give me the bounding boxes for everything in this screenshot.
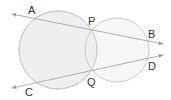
label-P: P bbox=[88, 15, 95, 27]
label-A: A bbox=[28, 4, 36, 16]
label-Q: Q bbox=[87, 76, 96, 88]
right-circle bbox=[85, 18, 149, 82]
geometry-diagram: A P B D Q C bbox=[0, 0, 171, 100]
label-D: D bbox=[148, 60, 156, 72]
label-B: B bbox=[148, 28, 155, 40]
label-C: C bbox=[25, 86, 33, 98]
